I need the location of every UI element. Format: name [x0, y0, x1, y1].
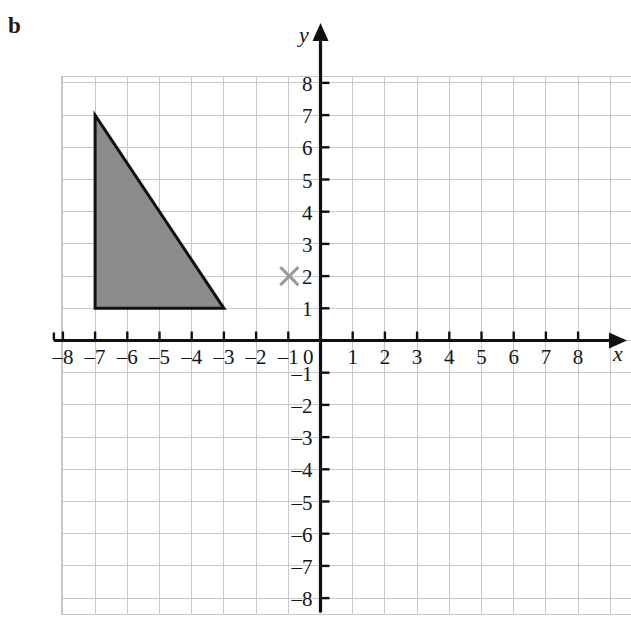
x-axis-tick-label: 3: [412, 345, 423, 369]
x-axis-tick-label: –2: [245, 345, 267, 369]
x-axis-tick-label: –5: [148, 345, 170, 369]
y-axis-tick-label: 5: [302, 169, 313, 193]
x-axis-tick-label: 7: [541, 345, 552, 369]
y-axis-arrowhead: [313, 23, 329, 41]
y-axis-tick-label: 6: [302, 136, 313, 160]
y-axis-label: y: [297, 22, 309, 47]
coordinate-grid-figure: b –8–7–6–5–4–3–2–112345678–8–7–6–5–4–3–2…: [0, 0, 631, 643]
x-axis-tick-label: –8: [51, 345, 73, 369]
origin-label: 0: [303, 345, 314, 369]
y-axis-tick-label: 3: [302, 233, 313, 257]
coordinate-plane-svg: –8–7–6–5–4–3–2–112345678–8–7–6–5–4–3–2–1…: [0, 0, 631, 643]
y-axis-tick-label: 2: [302, 265, 313, 289]
y-axis-tick-label: 7: [302, 104, 313, 128]
y-axis-tick-label: 1: [302, 297, 313, 321]
x-axis-tick-label: 5: [476, 345, 487, 369]
y-axis-tick-label: –7: [291, 555, 313, 579]
x-axis-tick-label: 8: [573, 345, 584, 369]
x-axis-tick-label: 1: [347, 345, 358, 369]
x-axis-tick-label: –6: [116, 345, 138, 369]
y-axis-tick-label: –4: [291, 458, 314, 482]
x-axis-tick-label: 2: [380, 345, 391, 369]
x-axis-tick-label: 6: [508, 345, 519, 369]
axes-layer: [54, 23, 627, 613]
y-axis-tick-label: –6: [291, 523, 313, 547]
x-axis-label: x: [612, 341, 623, 366]
y-axis-tick-label: –2: [291, 394, 313, 418]
y-axis-tick-label: –3: [291, 426, 313, 450]
y-axis-tick-label: –8: [291, 587, 313, 611]
x-axis-tick-label: –3: [212, 345, 234, 369]
x-axis-tick-label: –7: [84, 345, 106, 369]
y-axis-tick-label: 8: [302, 72, 313, 96]
x-axis-tick-label: –4: [180, 345, 203, 369]
y-axis-tick-label: –5: [291, 491, 313, 515]
y-axis-tick-label: 4: [302, 201, 313, 225]
x-axis-tick-label: 4: [444, 345, 455, 369]
